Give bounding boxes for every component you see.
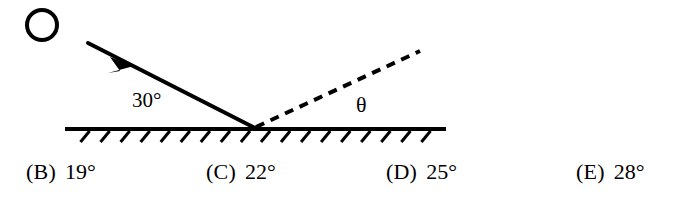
ground-hatch-mark — [321, 131, 330, 142]
incident-ray — [88, 43, 255, 128]
ground-hatch-mark — [141, 131, 150, 142]
answer-choice-e-value: 28° — [614, 159, 645, 184]
ground-hatch-mark — [80, 131, 89, 142]
ground-hatch-mark — [281, 131, 290, 142]
ground-hatch-mark — [401, 131, 410, 142]
ground-hatch-mark — [101, 131, 110, 142]
ground-hatch-marks — [80, 131, 430, 142]
answer-choice-e-letter: (E) — [576, 159, 605, 184]
ground-hatch-mark — [221, 131, 230, 142]
physics-diagram-figure: 30° θ (B)19° (C)22° (D)25° (E)28° — [0, 0, 675, 202]
ground-hatch-mark — [201, 131, 210, 142]
answer-choice-c-value: 22° — [245, 159, 276, 184]
answer-choices-row: (B)19° (C)22° (D)25° (E)28° — [0, 158, 675, 198]
ground-hatch-mark — [121, 131, 130, 142]
light-source-circle — [27, 10, 57, 40]
ground-hatch-mark — [181, 131, 190, 142]
answer-choice-e[interactable]: (E)28° — [576, 158, 645, 186]
answer-choice-d[interactable]: (D)25° — [386, 158, 457, 186]
ground-hatch-mark — [381, 131, 390, 142]
answer-choice-d-letter: (D) — [386, 159, 417, 184]
reflection-diagram-canvas — [0, 0, 675, 160]
incident-ray-line — [88, 43, 255, 128]
ground-hatch-mark — [241, 131, 250, 142]
reflected-ray-dashed-line — [256, 51, 420, 127]
answer-choice-b-letter: (B) — [26, 159, 56, 184]
ground-hatch-mark — [301, 131, 310, 142]
ground-hatch-mark — [361, 131, 370, 142]
answer-choice-d-value: 25° — [426, 159, 457, 184]
answer-choice-b-value: 19° — [65, 159, 96, 184]
ground-hatch-mark — [421, 131, 430, 142]
ground-hatch-mark — [341, 131, 350, 142]
ground-hatch-mark — [261, 131, 270, 142]
incident-angle-label: 30° — [132, 90, 161, 111]
answer-choice-c-letter: (C) — [206, 159, 236, 184]
ground-hatch-mark — [161, 131, 170, 142]
answer-choice-b[interactable]: (B)19° — [26, 158, 96, 186]
answer-choice-c[interactable]: (C)22° — [206, 158, 276, 186]
reflected-angle-label: θ — [356, 94, 367, 116]
